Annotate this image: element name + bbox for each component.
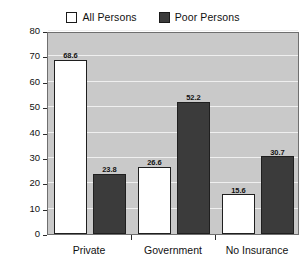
y-axis-tick-label: 0 bbox=[35, 229, 40, 239]
x-axis-tick-mark bbox=[215, 235, 216, 240]
y-axis-tick-label: 80 bbox=[29, 26, 40, 36]
legend-label-all-persons: All Persons bbox=[82, 11, 136, 23]
bar-private-all-persons: 68.6 bbox=[54, 60, 87, 234]
bar-value-label: 26.6 bbox=[147, 159, 162, 167]
legend-swatch-poor-persons bbox=[159, 12, 170, 23]
plot-area: 68.623.826.652.215.630.7 bbox=[47, 32, 299, 235]
x-axis-label-government: Government bbox=[144, 244, 202, 256]
y-axis-tick-label: 20 bbox=[29, 178, 40, 188]
chart-legend: All Persons Poor Persons bbox=[0, 6, 306, 28]
bar-value-label: 68.6 bbox=[63, 52, 78, 60]
x-axis-label-private: Private bbox=[73, 244, 106, 256]
bar-chart: All Persons Poor Persons 010203040506070… bbox=[0, 0, 306, 272]
bar-government-poor-persons: 52.2 bbox=[177, 102, 210, 234]
bar-value-label: 23.8 bbox=[102, 166, 117, 174]
y-axis-tick-label: 10 bbox=[29, 204, 40, 214]
y-axis-tick-label: 70 bbox=[29, 51, 40, 61]
y-axis-tick-label: 50 bbox=[29, 102, 40, 112]
gridline bbox=[48, 30, 298, 31]
bars-layer: 68.623.826.652.215.630.7 bbox=[48, 33, 298, 234]
bar-value-label: 30.7 bbox=[270, 149, 285, 157]
bar-government-all-persons: 26.6 bbox=[138, 167, 171, 234]
bar-no-insurance-poor-persons: 30.7 bbox=[261, 156, 294, 234]
y-axis: 01020304050607080 bbox=[0, 32, 47, 235]
legend-label-poor-persons: Poor Persons bbox=[175, 11, 240, 23]
bar-private-poor-persons: 23.8 bbox=[93, 174, 126, 234]
legend-item-all-persons: All Persons bbox=[66, 11, 136, 23]
y-axis-tick-label: 60 bbox=[29, 77, 40, 87]
bar-no-insurance-all-persons: 15.6 bbox=[222, 194, 255, 234]
bar-value-label: 52.2 bbox=[186, 94, 201, 102]
bar-value-label: 15.6 bbox=[231, 187, 246, 195]
x-axis-label-no-insurance: No Insurance bbox=[226, 244, 288, 256]
y-axis-tick-label: 40 bbox=[29, 128, 40, 138]
legend-item-poor-persons: Poor Persons bbox=[159, 11, 240, 23]
x-axis-tick-mark bbox=[131, 235, 132, 240]
legend-swatch-all-persons bbox=[66, 12, 77, 23]
x-axis: PrivateGovernmentNo Insurance bbox=[47, 235, 299, 265]
y-axis-tick-label: 30 bbox=[29, 153, 40, 163]
